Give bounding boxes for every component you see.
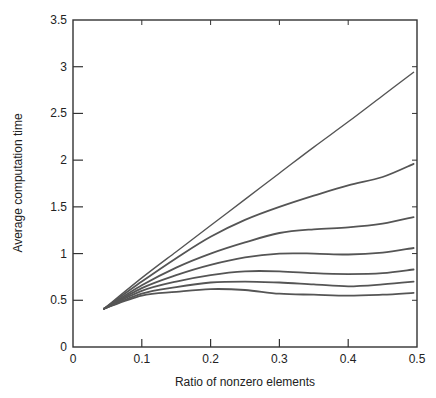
x-tick-label: 0 (70, 352, 77, 366)
x-axis-label: Ratio of nonzero elements (175, 375, 315, 389)
x-tick-label: 0.1 (133, 352, 150, 366)
y-tick-label: 1.5 (50, 200, 67, 214)
y-tick-label: 0.5 (50, 293, 67, 307)
y-tick-label: 1 (60, 247, 67, 261)
y-tick-label: 2.5 (50, 106, 67, 120)
series-layer (104, 72, 414, 308)
y-tick-label: 2 (60, 153, 67, 167)
x-tick-label: 0.3 (271, 352, 288, 366)
series-line-2 (104, 164, 414, 309)
y-tick-label: 0 (60, 340, 67, 354)
line-chart: 00.10.20.30.40.500.511.522.533.5 Ratio o… (0, 0, 436, 398)
axis-ticks: 00.10.20.30.40.500.511.522.533.5 (50, 13, 425, 366)
y-axis-label: Average computation time (11, 113, 25, 253)
x-tick-label: 0.4 (340, 352, 357, 366)
series-line-4 (104, 248, 414, 309)
y-tick-label: 3.5 (50, 13, 67, 27)
y-tick-label: 3 (60, 60, 67, 74)
x-tick-label: 0.5 (409, 352, 426, 366)
x-tick-label: 0.2 (202, 352, 219, 366)
